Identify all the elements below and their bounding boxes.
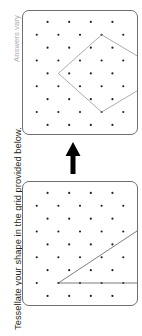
grid-dot xyxy=(79,205,81,207)
grid-dot xyxy=(79,85,81,87)
grid-dot xyxy=(111,269,113,271)
grid-dot xyxy=(101,85,103,87)
grid-dot xyxy=(111,47,113,49)
grid-dot xyxy=(46,124,48,126)
dot-grid-source xyxy=(36,192,125,297)
grid-dot xyxy=(79,256,81,258)
grid-dot xyxy=(68,295,70,297)
grid-dot xyxy=(36,59,38,61)
grid-dot xyxy=(46,98,48,100)
grid-dot xyxy=(57,230,59,232)
grid-dot xyxy=(57,34,59,36)
grid-dot xyxy=(122,111,124,113)
up-arrow-glyph xyxy=(66,142,81,174)
grid-dot xyxy=(46,72,48,74)
grid-dot xyxy=(90,98,92,100)
grid-dot xyxy=(111,243,113,245)
grid-dot xyxy=(122,59,124,61)
grid-dot xyxy=(57,256,59,258)
grid-dot xyxy=(90,269,92,271)
grid-dot xyxy=(90,243,92,245)
grid-dot xyxy=(122,85,124,87)
grid-dot xyxy=(36,111,38,113)
grid-dot xyxy=(79,59,81,61)
grid-dot xyxy=(90,124,92,126)
target-grid-svg xyxy=(23,11,137,134)
grid-dot xyxy=(57,111,59,113)
grid-dot xyxy=(90,192,92,194)
grid-dot xyxy=(36,34,38,36)
grid-dot xyxy=(36,205,38,207)
grid-dot xyxy=(111,21,113,23)
grid-dot xyxy=(68,269,70,271)
answers-vary-note: Answers vary xyxy=(13,15,21,62)
dot-grid-target xyxy=(36,21,125,126)
grid-dot xyxy=(90,47,92,49)
grid-dot xyxy=(122,34,124,36)
grid-dot xyxy=(68,218,70,220)
grid-dot xyxy=(68,72,70,74)
grid-dot xyxy=(101,205,103,207)
grid-dot xyxy=(46,218,48,220)
grid-dot xyxy=(46,295,48,297)
source-grid-svg xyxy=(23,182,137,305)
grid-dot xyxy=(90,72,92,74)
grid-dot xyxy=(57,205,59,207)
grid-dot xyxy=(36,256,38,258)
right-triangle-shape xyxy=(58,219,137,283)
grid-dot xyxy=(79,34,81,36)
grid-dot xyxy=(90,21,92,23)
grid-dot xyxy=(122,205,124,207)
worksheet-page: Tessellate your shape in the grid provid… xyxy=(0,0,142,336)
grid-dot xyxy=(36,230,38,232)
grid-dot xyxy=(101,230,103,232)
grid-dot xyxy=(101,256,103,258)
grid-dot xyxy=(90,295,92,297)
grid-dot xyxy=(79,230,81,232)
text-column: Tessellate your shape in the grid provid… xyxy=(0,0,20,336)
source-grid-panel[interactable] xyxy=(22,181,138,306)
grid-dot xyxy=(111,124,113,126)
grid-dot xyxy=(68,21,70,23)
target-grid-panel[interactable] xyxy=(22,10,138,135)
grid-dot xyxy=(111,98,113,100)
grid-dot xyxy=(111,72,113,74)
grid-dot xyxy=(36,85,38,87)
grid-dot xyxy=(57,85,59,87)
grid-dot xyxy=(46,192,48,194)
grid-dot xyxy=(68,98,70,100)
grid-dot xyxy=(57,59,59,61)
grid-dot xyxy=(122,230,124,232)
grid-dot xyxy=(46,269,48,271)
grid-dot xyxy=(46,243,48,245)
grid-dot xyxy=(68,243,70,245)
grid-dot xyxy=(111,192,113,194)
grid-dot xyxy=(46,21,48,23)
grid-dot xyxy=(68,47,70,49)
grid-dot xyxy=(46,47,48,49)
grid-dot xyxy=(68,192,70,194)
grid-dot xyxy=(68,124,70,126)
grid-dot xyxy=(101,59,103,61)
grid-dot xyxy=(111,218,113,220)
grid-dot xyxy=(122,256,124,258)
grid-dot xyxy=(111,295,113,297)
grid-dot xyxy=(90,218,92,220)
grid-dot xyxy=(36,282,38,284)
grid-dot xyxy=(79,111,81,113)
up-arrow-icon xyxy=(58,140,88,176)
